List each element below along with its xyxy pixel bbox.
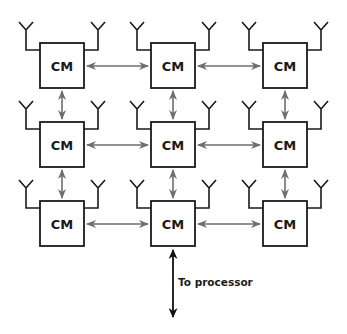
antenna-icon (84, 180, 105, 208)
processor-label: To processor (178, 276, 254, 288)
antenna-icon (242, 22, 263, 50)
antenna-icon (84, 101, 105, 129)
cm-label: CM (162, 217, 184, 232)
antenna-icon (242, 180, 263, 208)
antenna-icon (307, 22, 328, 50)
antenna-icon (195, 180, 216, 208)
antenna-icon (130, 180, 151, 208)
antenna-icon (195, 101, 216, 129)
cm-label: CM (274, 138, 296, 153)
antenna-icon (242, 101, 263, 129)
antenna-icon (307, 101, 328, 129)
cm-label: CM (274, 59, 296, 74)
cm-label: CM (51, 59, 73, 74)
cm-mesh-diagram: To processor CM CM CM CM CM CM CM CM CM (0, 0, 347, 334)
antenna-icon (130, 22, 151, 50)
antenna-icon (84, 22, 105, 50)
cm-label: CM (274, 217, 296, 232)
cm-label: CM (162, 138, 184, 153)
cm-label: CM (51, 138, 73, 153)
antenna-icon (307, 180, 328, 208)
antenna-icon (19, 180, 40, 208)
antenna-icon (19, 22, 40, 50)
antenna-icon (195, 22, 216, 50)
antenna-icon (19, 101, 40, 129)
cm-label: CM (162, 59, 184, 74)
antenna-icon (130, 101, 151, 129)
cm-label: CM (51, 217, 73, 232)
